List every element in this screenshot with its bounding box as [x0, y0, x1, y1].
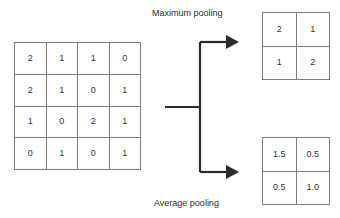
input-cell: 0	[47, 107, 79, 139]
max-output-cell: 1	[297, 13, 331, 47]
maximum-pooling-label: Maximum pooling	[152, 9, 223, 18]
input-cell: 1	[110, 107, 142, 139]
input-cell: 0	[15, 138, 47, 170]
avg-output-cell: 1.5	[263, 138, 297, 172]
input-cell: 1	[47, 43, 79, 75]
input-cell: 0	[78, 138, 110, 170]
input-cell: 1	[110, 138, 142, 170]
arrowhead-max-icon	[226, 35, 239, 49]
max-output-cell: 2	[263, 13, 297, 47]
arrowhead-avg-icon	[226, 165, 239, 179]
avg-output-cell: 0.5	[263, 172, 297, 206]
input-cell: 1	[15, 107, 47, 139]
input-cell: 1	[110, 75, 142, 107]
avg-output-cell: 1.0	[297, 172, 331, 206]
input-matrix: 2 1 1 0 2 1 0 1 1 0 2 1 0 1 0 1	[14, 42, 141, 170]
avg-output-cell: 0.5	[297, 138, 331, 172]
input-cell: 1	[78, 43, 110, 75]
average-pooling-label: Average pooling	[154, 199, 219, 208]
pooling-diagram: 2 1 1 0 2 1 0 1 1 0 2 1 0 1 0 1 Maximum …	[0, 0, 340, 218]
input-cell: 2	[78, 107, 110, 139]
max-output-cell: 2	[297, 47, 331, 81]
input-cell: 0	[78, 75, 110, 107]
input-cell: 1	[47, 75, 79, 107]
max-output-cell: 1	[263, 47, 297, 81]
input-cell: 2	[15, 75, 47, 107]
branching-arrow	[165, 30, 245, 190]
input-cell: 0	[110, 43, 142, 75]
input-cell: 1	[47, 138, 79, 170]
input-cell: 2	[15, 43, 47, 75]
average-pooling-output-matrix: 1.5 0.5 0.5 1.0	[262, 137, 330, 205]
max-pooling-output-matrix: 2 1 1 2	[262, 12, 330, 80]
